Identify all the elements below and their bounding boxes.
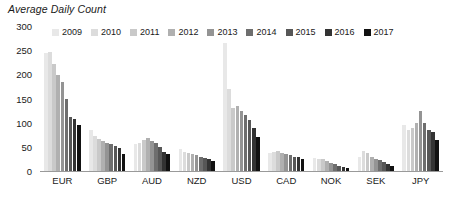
bar[interactable]: [435, 140, 439, 171]
bar[interactable]: [382, 162, 386, 171]
bar[interactable]: [374, 159, 378, 171]
bar[interactable]: [272, 152, 276, 171]
bar[interactable]: [378, 160, 382, 171]
bar[interactable]: [280, 153, 284, 171]
bar[interactable]: [183, 152, 187, 171]
y-axis-tick-label: 100: [16, 117, 32, 128]
bar[interactable]: [77, 125, 81, 171]
chart-page: Average Daily Count 20092010201120122013…: [0, 0, 449, 200]
bar-group: [179, 26, 216, 171]
chart-title: Average Daily Count: [8, 3, 106, 15]
bar[interactable]: [293, 157, 297, 172]
bar[interactable]: [207, 159, 211, 171]
bar[interactable]: [150, 141, 154, 171]
bar[interactable]: [199, 157, 203, 172]
bar[interactable]: [252, 128, 256, 172]
bar[interactable]: [191, 154, 195, 171]
bar[interactable]: [240, 111, 244, 171]
bar[interactable]: [89, 130, 93, 171]
bar-group: [358, 26, 395, 171]
bar[interactable]: [142, 140, 146, 171]
x-axis-tick-label: SEK: [366, 175, 385, 186]
bar[interactable]: [236, 106, 240, 171]
bar[interactable]: [362, 151, 366, 171]
y-axis-tick-label: 200: [16, 69, 32, 80]
bar[interactable]: [134, 144, 138, 171]
bar[interactable]: [329, 163, 333, 171]
bar[interactable]: [48, 52, 52, 171]
bar[interactable]: [248, 120, 252, 171]
bar[interactable]: [211, 161, 215, 171]
bar[interactable]: [122, 154, 126, 171]
bar[interactable]: [415, 123, 419, 171]
bar[interactable]: [109, 144, 113, 171]
bar[interactable]: [52, 64, 56, 171]
bar-group: [313, 26, 350, 171]
bar[interactable]: [370, 157, 374, 172]
bar[interactable]: [227, 89, 231, 171]
y-axis-tick-label: 0: [27, 166, 32, 177]
bar[interactable]: [231, 108, 235, 171]
bar[interactable]: [93, 136, 97, 171]
x-axis-tick-label: USD: [231, 175, 251, 186]
bar[interactable]: [289, 155, 293, 171]
bar[interactable]: [101, 141, 105, 171]
bar[interactable]: [154, 143, 158, 171]
bar[interactable]: [386, 164, 390, 171]
bar[interactable]: [105, 143, 109, 171]
bar[interactable]: [65, 99, 69, 171]
bar[interactable]: [56, 75, 60, 171]
bar[interactable]: [407, 130, 411, 171]
bar[interactable]: [73, 119, 77, 171]
bar[interactable]: [158, 147, 162, 171]
bar[interactable]: [301, 159, 305, 171]
x-axis-tick-label: EUR: [52, 175, 72, 186]
bar[interactable]: [114, 146, 118, 171]
bar[interactable]: [187, 153, 191, 171]
x-axis-tick-label: CAD: [276, 175, 296, 186]
bar[interactable]: [411, 128, 415, 172]
bar[interactable]: [195, 155, 199, 171]
bar[interactable]: [203, 158, 207, 171]
bar-group: [402, 26, 439, 171]
x-axis-tick-label: AUD: [142, 175, 162, 186]
bar[interactable]: [223, 43, 227, 171]
bar[interactable]: [419, 111, 423, 171]
bar-group: [89, 26, 126, 171]
bar[interactable]: [366, 153, 370, 171]
x-axis-tick-label: NZD: [187, 175, 207, 186]
bar[interactable]: [325, 161, 329, 171]
bar[interactable]: [118, 148, 122, 171]
bar[interactable]: [427, 130, 431, 171]
bar[interactable]: [313, 158, 317, 171]
bar[interactable]: [333, 164, 337, 171]
bar[interactable]: [97, 139, 101, 171]
bar[interactable]: [61, 82, 65, 171]
bar[interactable]: [297, 157, 301, 171]
bar[interactable]: [44, 53, 48, 171]
x-axis-tick-label: NOK: [321, 175, 342, 186]
x-axis-tick-label: JPY: [412, 175, 429, 186]
bar[interactable]: [402, 125, 406, 171]
bar-group: [134, 26, 171, 171]
bar-group: [223, 26, 260, 171]
bar[interactable]: [138, 143, 142, 171]
bar[interactable]: [162, 152, 166, 171]
bar[interactable]: [358, 157, 362, 172]
y-axis-tick-label: 50: [21, 141, 32, 152]
y-axis-tick-label: 300: [16, 21, 32, 32]
bar[interactable]: [431, 132, 435, 171]
bar[interactable]: [276, 151, 280, 171]
bar[interactable]: [317, 159, 321, 171]
bar[interactable]: [146, 138, 150, 171]
bar[interactable]: [179, 149, 183, 171]
bar[interactable]: [69, 117, 73, 171]
bar[interactable]: [268, 153, 272, 171]
y-axis-tick-label: 150: [16, 93, 32, 104]
bar[interactable]: [321, 159, 325, 171]
bar[interactable]: [166, 154, 170, 171]
bar[interactable]: [244, 115, 248, 171]
bar[interactable]: [423, 123, 427, 171]
bar[interactable]: [284, 154, 288, 171]
bar[interactable]: [256, 137, 260, 171]
